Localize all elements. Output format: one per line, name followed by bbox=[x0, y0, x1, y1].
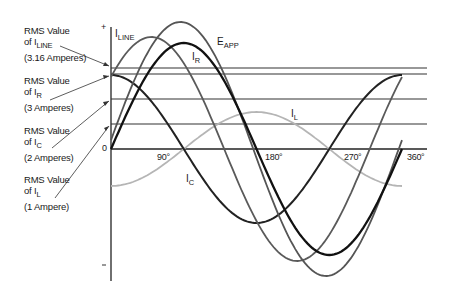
tick-360: 360° bbox=[407, 152, 424, 162]
label-ic: IC bbox=[186, 173, 194, 184]
rms-label-ir: RMS Value of IR (3 Amperes) bbox=[24, 75, 74, 113]
rms-label-iline: RMS Value of ILINE (3.16 Amperes) bbox=[24, 25, 86, 63]
plus-sign: + bbox=[101, 22, 106, 32]
zero-label: 0 bbox=[102, 143, 107, 153]
label-iline: ILINE bbox=[115, 28, 134, 39]
rms-label-il: RMS Value of IL (1 Ampere) bbox=[24, 174, 70, 212]
tick-270: 270° bbox=[344, 152, 361, 162]
label-eapp: EAPP bbox=[217, 36, 239, 47]
tick-180: 180° bbox=[265, 152, 282, 162]
tick-90: 90° bbox=[157, 152, 170, 162]
rms-label-ic: RMS Value of IC (2 Amperes) bbox=[24, 125, 74, 163]
label-il: IL bbox=[291, 108, 298, 119]
label-ir: IR bbox=[192, 51, 200, 62]
